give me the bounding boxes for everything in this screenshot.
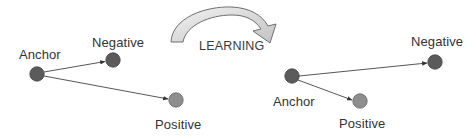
edge-anchor-negative-after bbox=[299, 63, 427, 76]
positive-label-after: Positive bbox=[339, 117, 385, 130]
anchor-node-after bbox=[285, 69, 299, 83]
negative-label-after: Negative bbox=[411, 35, 463, 48]
positive-node-after bbox=[353, 94, 367, 108]
diagram-canvas bbox=[0, 0, 476, 139]
curved-arrow-icon bbox=[171, 7, 276, 43]
anchor-label-before: Anchor bbox=[19, 48, 61, 61]
learning-label: LEARNING bbox=[199, 40, 265, 53]
positive-label-before: Positive bbox=[155, 118, 201, 131]
before-edges bbox=[44, 62, 168, 100]
negative-node-after bbox=[428, 55, 442, 69]
edge-anchor-positive-before bbox=[44, 76, 168, 99]
anchor-label-after: Anchor bbox=[273, 95, 315, 108]
edge-anchor-negative-before bbox=[44, 62, 105, 73]
negative-node-before bbox=[106, 53, 120, 67]
positive-node-before bbox=[169, 93, 183, 107]
negative-label-before: Negative bbox=[92, 36, 144, 49]
anchor-node-before bbox=[30, 67, 44, 81]
